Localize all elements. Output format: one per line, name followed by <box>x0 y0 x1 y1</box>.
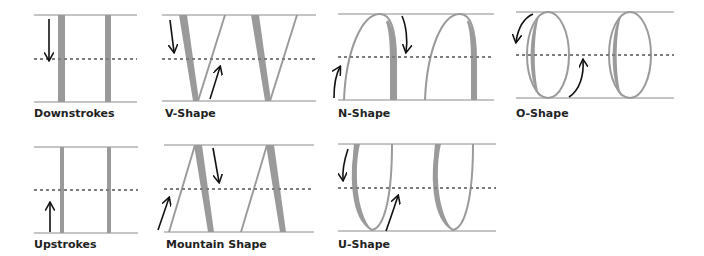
n-arch-2 <box>425 14 476 100</box>
counterclockwise-arrow-icon <box>516 14 533 42</box>
label-downstrokes: Downstrokes <box>34 107 115 120</box>
panel-u-shape: U-Shape <box>320 128 500 256</box>
upstrokes-diagram <box>0 128 150 256</box>
down-arrow-icon <box>170 20 174 52</box>
label-o-shape: O-Shape <box>516 107 569 120</box>
label-u-shape: U-Shape <box>338 238 390 251</box>
label-upstrokes: Upstrokes <box>34 238 97 251</box>
label-n-shape: N-Shape <box>338 107 390 120</box>
panel-o-shape: O-Shape <box>500 0 704 128</box>
down-arrow-icon <box>402 16 407 52</box>
panel-mountain-shape: Mountain Shape <box>150 128 330 256</box>
up-arrow-icon <box>569 60 583 97</box>
up-arrow-icon <box>334 67 340 98</box>
label-mountain-shape: Mountain Shape <box>166 238 267 251</box>
label-v-shape: V-Shape <box>165 107 216 120</box>
mountain-shape-diagram <box>150 128 330 256</box>
panel-v-shape: V-Shape <box>150 0 330 128</box>
u-shape-diagram <box>320 128 500 256</box>
panel-downstrokes: Downstrokes <box>0 0 150 128</box>
down-arrow-icon <box>343 149 348 180</box>
up-arrow-icon <box>158 198 169 230</box>
panel-n-shape: N-Shape <box>330 0 500 128</box>
panel-upstrokes: Upstrokes <box>0 128 150 256</box>
down-arrow-icon <box>213 148 219 182</box>
up-arrow-icon <box>210 67 220 99</box>
